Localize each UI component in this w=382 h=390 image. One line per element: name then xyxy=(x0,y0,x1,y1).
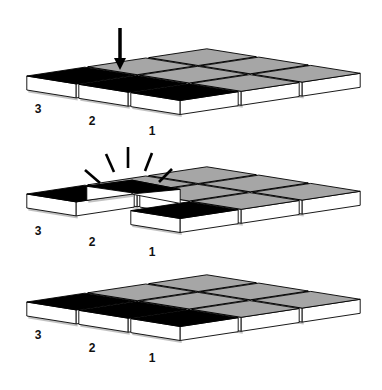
panel-middle: 321 xyxy=(27,147,360,259)
tile-label-2: 2 xyxy=(89,235,96,249)
tile-mechanism-diagram: 321321321 xyxy=(0,0,382,390)
tile-label-1: 1 xyxy=(149,351,156,365)
tile-label-1: 1 xyxy=(149,245,156,259)
panels: 321321321 xyxy=(27,28,360,365)
panel-bottom: 321 xyxy=(27,275,360,365)
tile-label-2: 2 xyxy=(89,114,96,128)
panel-top: 321 xyxy=(27,28,360,138)
tile-label-2: 2 xyxy=(89,341,96,355)
tile-label-3: 3 xyxy=(35,102,42,116)
tile-label-3: 3 xyxy=(35,328,42,342)
tile-label-3: 3 xyxy=(35,224,42,238)
tile-label-1: 1 xyxy=(149,124,156,138)
